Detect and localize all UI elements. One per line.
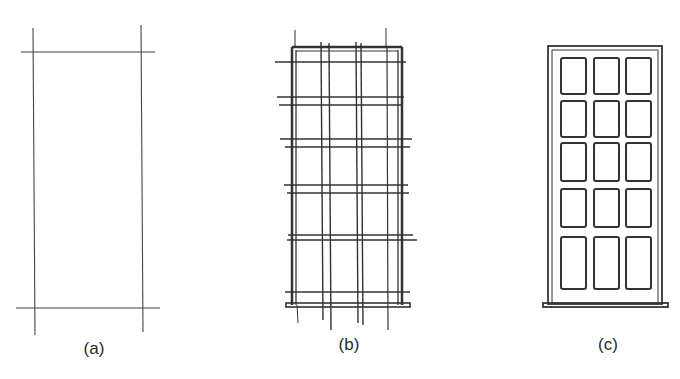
panel-c-drawing [543,46,668,307]
figure-canvas [0,0,680,379]
panel-a-label: (a) [84,339,105,359]
panel-c-label: (c) [598,335,618,355]
panel-b-label: (b) [339,335,360,355]
panel-a-drawing [16,25,160,335]
panel-b-drawing [275,28,417,330]
